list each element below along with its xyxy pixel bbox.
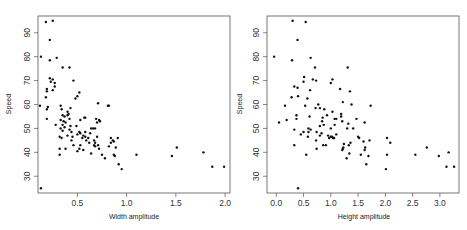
data-point xyxy=(309,89,311,91)
data-point xyxy=(66,114,68,116)
data-point xyxy=(315,139,317,141)
data-point xyxy=(306,97,308,99)
data-point xyxy=(69,125,71,127)
data-point xyxy=(367,155,369,157)
data-point xyxy=(386,154,388,156)
y-tick-label: 50 xyxy=(22,123,32,133)
data-point xyxy=(347,122,349,124)
data-point xyxy=(328,137,330,139)
y-tick-label: 40 xyxy=(22,147,32,157)
data-point xyxy=(304,104,306,106)
data-point xyxy=(349,90,351,92)
data-point xyxy=(49,39,51,41)
data-point xyxy=(309,128,311,130)
scatter-plot-height: 30405060708090 0.00.51.01.52.02.53.0 Hei… xyxy=(236,16,459,221)
y-tick-label: 50 xyxy=(251,123,261,133)
data-point xyxy=(90,152,92,154)
data-point xyxy=(101,154,103,156)
data-points xyxy=(39,20,226,190)
data-point xyxy=(319,125,321,127)
data-point xyxy=(104,157,106,159)
data-point xyxy=(343,143,345,145)
data-point xyxy=(113,140,115,142)
data-point xyxy=(46,88,48,90)
data-point xyxy=(82,149,84,151)
data-point xyxy=(342,101,344,103)
data-point xyxy=(307,131,309,133)
data-point xyxy=(76,150,78,152)
data-point xyxy=(297,95,299,97)
data-point xyxy=(273,55,275,57)
data-point xyxy=(71,136,73,138)
data-point xyxy=(49,59,51,61)
data-point xyxy=(348,152,350,154)
x-tick-label: 2.5 xyxy=(407,198,419,208)
scatter-plot-width: 30405060708090 0.51.01.52.0 Width amplit… xyxy=(5,16,231,221)
data-point xyxy=(93,139,95,141)
data-point xyxy=(58,148,60,150)
data-point xyxy=(84,131,86,133)
data-point xyxy=(110,142,112,144)
y-tick-label: 30 xyxy=(251,171,261,181)
data-point xyxy=(293,144,295,146)
data-point xyxy=(330,127,332,129)
data-point xyxy=(46,118,48,120)
data-point xyxy=(315,79,317,81)
y-tick-label: 40 xyxy=(251,147,261,157)
data-point xyxy=(70,131,72,133)
data-point xyxy=(84,116,86,118)
data-point xyxy=(61,130,63,132)
data-point xyxy=(56,57,58,59)
x-tick-label: 0.5 xyxy=(298,198,310,208)
data-point xyxy=(358,137,360,139)
data-point xyxy=(340,113,342,115)
data-point xyxy=(295,114,297,116)
data-point xyxy=(331,110,333,112)
scatter-plots: 30405060708090 0.51.01.52.0 Width amplit… xyxy=(0,0,467,230)
data-point xyxy=(70,139,72,141)
y-tick-label: 30 xyxy=(22,171,32,181)
x-tick-label: 0.0 xyxy=(270,198,282,208)
data-point xyxy=(296,87,298,89)
data-point xyxy=(426,146,428,148)
data-point xyxy=(385,168,387,170)
data-point xyxy=(211,165,213,167)
data-point xyxy=(368,139,370,141)
data-point xyxy=(341,149,343,151)
data-point xyxy=(94,142,96,144)
data-point xyxy=(89,132,91,134)
data-point xyxy=(50,81,52,83)
data-point xyxy=(285,119,287,121)
data-point xyxy=(291,59,293,61)
data-point xyxy=(319,134,321,136)
data-point xyxy=(54,82,56,84)
data-point xyxy=(315,131,317,133)
data-point xyxy=(40,187,42,189)
data-point xyxy=(360,154,362,156)
data-point xyxy=(295,118,297,120)
data-point xyxy=(40,55,42,57)
data-point xyxy=(303,76,305,78)
x-axis: 0.51.01.52.0 xyxy=(71,193,231,208)
y-tick-label: 90 xyxy=(22,28,32,38)
data-point xyxy=(322,144,324,146)
data-point xyxy=(202,151,204,153)
data-point xyxy=(135,154,137,156)
data-point xyxy=(59,119,61,121)
y-axis: 30405060708090 xyxy=(251,28,267,181)
data-point xyxy=(96,121,98,123)
data-point xyxy=(52,78,54,80)
data-point xyxy=(323,108,325,110)
data-point xyxy=(115,146,117,148)
y-tick-label: 90 xyxy=(251,28,261,38)
data-point xyxy=(340,115,342,117)
data-point xyxy=(307,127,309,129)
data-point xyxy=(369,104,371,106)
data-point xyxy=(350,103,352,105)
data-point xyxy=(46,108,48,110)
data-point xyxy=(363,149,365,151)
data-point xyxy=(223,165,225,167)
data-point xyxy=(386,137,388,139)
data-point xyxy=(76,133,78,135)
data-point xyxy=(66,134,68,136)
